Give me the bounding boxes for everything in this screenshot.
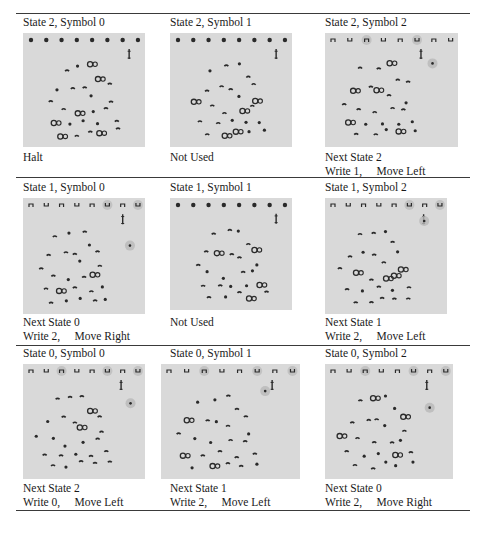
cell-state0-symbol1: State 0, Symbol 1 Next State 1 Write 2, … [163,345,313,510]
cell-state2-symbol2: State 2, Symbol 2 Next State 2 Write 1, … [318,14,468,177]
particle-pattern-icon [325,364,453,479]
row-divider [16,177,470,178]
caption-action: Write 1, Move Left [325,165,425,177]
cell-title: State 2, Symbol 0 [23,16,105,28]
caption-next-state: Next State 2 [325,151,382,163]
simulation-panel [170,33,292,147]
table-row-state-0: State 0, Symbol 0 Next State 2 Write 0, … [16,345,470,510]
particle-pattern-icon [23,198,145,314]
cell-state0-symbol0: State 0, Symbol 0 Next State 2 Write 0, … [16,345,166,510]
cell-state0-symbol2: State 0, Symbol 2 Next State 0 Write 2, … [318,345,468,510]
cell-title: State 1, Symbol 2 [325,181,407,193]
caption-action: Write 2, Move Left [170,496,270,508]
caption-next-state: Next State 0 [325,482,382,494]
caption-next-state: Next State 0 [23,316,80,328]
caption-next-state: Not Used [170,151,214,163]
cell-state2-symbol0: State 2, Symbol 0 Halt [16,14,166,177]
caption-action: Write 2, Move Left [325,330,425,342]
caption-action: Write 0, Move Left [23,496,123,508]
particle-pattern-icon [23,33,145,147]
caption-next-state: Halt [23,151,43,163]
caption-action: Write 2, Move Right [23,330,130,342]
particle-pattern-icon [325,33,458,147]
simulation-panel [23,198,145,314]
caption-next-state: Next State 1 [170,482,227,494]
particle-pattern-icon [161,364,300,479]
cell-state2-symbol1: State 2, Symbol 1 Not Used [163,14,313,177]
caption-next-state: Next State 1 [325,316,382,328]
table-bottom-rule [16,510,470,511]
particle-pattern-icon [23,364,145,479]
simulation-panel [161,364,300,479]
simulation-panel [325,198,447,314]
cell-state1-symbol1: State 1, Symbol 1 Not Used [163,179,313,345]
particle-pattern-icon [170,198,292,310]
cell-title: State 0, Symbol 0 [23,347,105,359]
cell-title: State 1, Symbol 0 [23,181,105,193]
table-row-state-2: State 2, Symbol 0 Halt State 2, Symbol 1… [16,14,470,177]
cell-state1-symbol2: State 1, Symbol 2 Next State 1 Write 2, … [318,179,468,345]
cell-title: State 1, Symbol 1 [170,181,252,193]
cell-state1-symbol0: State 1, Symbol 0 Next State 0 Write 2, … [16,179,166,345]
cell-title: State 2, Symbol 2 [325,16,407,28]
simulation-panel [170,198,292,310]
particle-pattern-icon [170,33,292,147]
simulation-panel [23,33,145,147]
table-row-state-1: State 1, Symbol 0 Next State 0 Write 2, … [16,179,470,345]
caption-next-state: Not Used [170,316,214,328]
cell-title: State 2, Symbol 1 [170,16,252,28]
cell-title: State 0, Symbol 2 [325,347,407,359]
simulation-panel [325,364,453,479]
caption-action: Write 2, Move Right [325,496,432,508]
particle-pattern-icon [325,198,447,314]
cell-title: State 0, Symbol 1 [170,347,252,359]
caption-next-state: Next State 2 [23,482,80,494]
simulation-panel [325,33,458,147]
simulation-panel [23,364,145,479]
